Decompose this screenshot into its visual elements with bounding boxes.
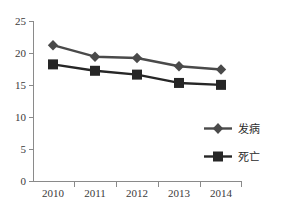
x-tick-label-2012: 2012 [126,187,148,199]
square-marker [48,59,58,69]
line-chart: 0 5 10 15 20 25 2010 2011 2012 2013 2014… [0,0,283,214]
square-marker [174,78,184,88]
chart-canvas: 0 5 10 15 20 25 2010 2011 2012 2013 2014… [0,0,283,214]
x-tick-label-2011: 2011 [84,187,106,199]
legend-label-incidence: 发病 [238,122,260,136]
y-tick-label-20: 20 [15,47,27,59]
square-marker [132,70,142,80]
x-tick-label-2013: 2013 [168,187,191,199]
legend-label-mortality: 死亡 [238,150,260,164]
y-tick-label-5: 5 [21,143,27,155]
x-tick-label-2010: 2010 [42,187,65,199]
x-tick-label-2014: 2014 [210,187,233,199]
square-marker [90,66,100,76]
y-tick-label-10: 10 [15,111,27,123]
y-tick-label-25: 25 [15,15,27,27]
y-tick-label-15: 15 [15,79,27,91]
square-icon [213,152,223,162]
y-tick-label-0: 0 [21,175,27,187]
square-marker [216,80,226,90]
